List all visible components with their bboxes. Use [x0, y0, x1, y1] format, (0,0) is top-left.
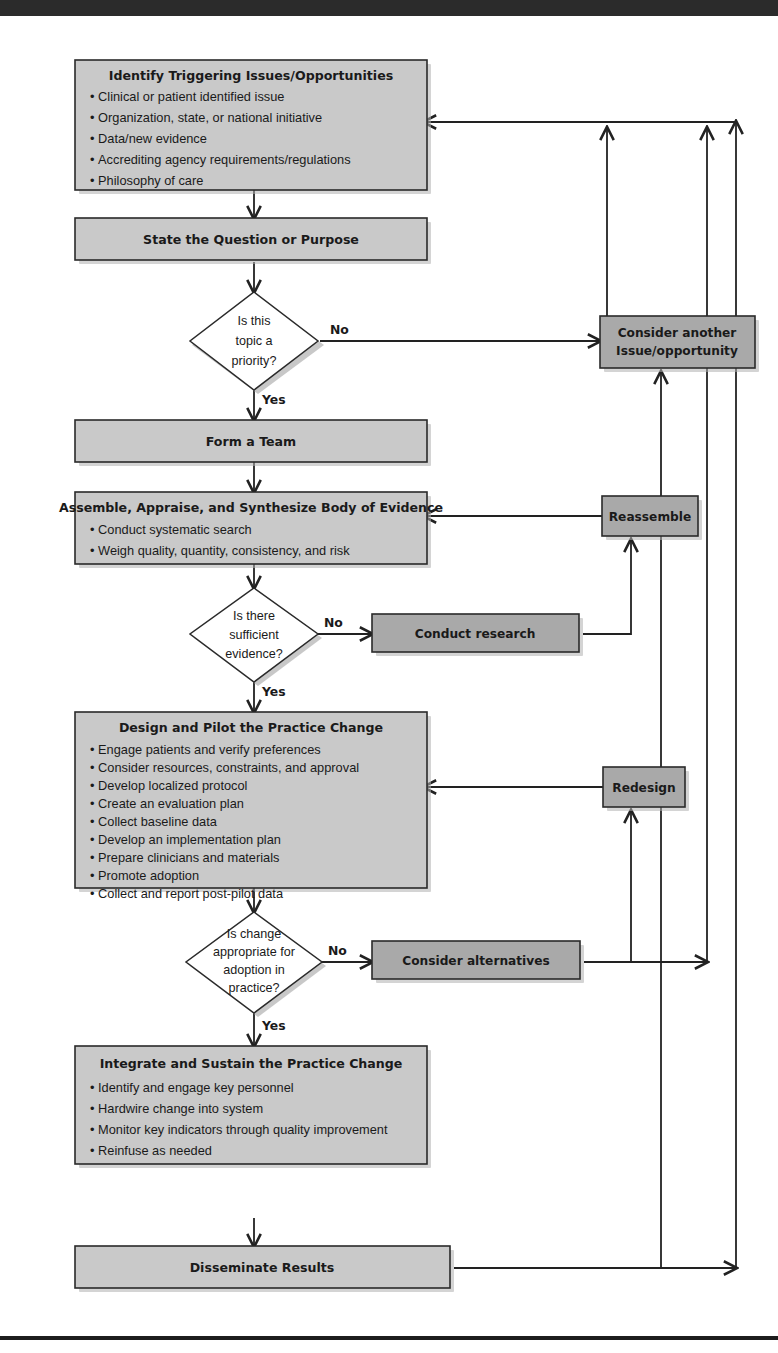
design-pilot-bullet-1: • Consider resources, constraints, and a… — [90, 760, 359, 775]
node-consider-alternatives[interactable]: Consider alternatives — [372, 941, 584, 983]
integrate-heading: Integrate and Sustain the Practice Chang… — [100, 1056, 403, 1071]
disseminate-heading: Disseminate Results — [190, 1260, 335, 1275]
assemble-bullet-1: • Weigh quality, quantity, consistency, … — [90, 543, 350, 558]
label-adoption-yes: Yes — [261, 1018, 286, 1033]
consider-another-line1: Consider another — [618, 326, 737, 340]
priority-line-2: priority? — [232, 354, 277, 368]
integrate-bullet-2: • Monitor key indicators through quality… — [90, 1122, 388, 1137]
consider-another-line2: Issue/opportunity — [616, 344, 738, 358]
identify-heading: Identify Triggering Issues/Opportunities — [109, 68, 393, 83]
integrate-bullet-0: • Identify and engage key personnel — [90, 1080, 294, 1095]
evidence-line-0: Is there — [233, 609, 275, 623]
design-pilot-bullet-7: • Promote adoption — [90, 868, 199, 883]
assemble-heading: Assemble, Appraise, and Synthesize Body … — [59, 500, 443, 515]
priority-line-1: topic a — [235, 334, 272, 348]
flowchart-page: Identify Triggering Issues/Opportunities… — [0, 0, 778, 1353]
adoption-line-3: practice? — [228, 981, 279, 995]
design-pilot-heading: Design and Pilot the Practice Change — [119, 720, 383, 735]
identify-bullet-2: • Data/new evidence — [90, 131, 207, 146]
reassemble-label: Reassemble — [609, 510, 692, 524]
node-state-question[interactable]: State the Question or Purpose — [75, 218, 431, 264]
label-evidence-no: No — [324, 615, 343, 630]
evidence-line-1: sufficient — [229, 628, 279, 642]
state-question-heading: State the Question or Purpose — [143, 232, 359, 247]
decision-is-topic-priority[interactable]: Is this topic a priority? — [190, 292, 324, 394]
node-form-a-team[interactable]: Form a Team — [75, 420, 431, 466]
integrate-bullet-1: • Hardwire change into system — [90, 1101, 263, 1116]
design-pilot-bullet-2: • Develop localized protocol — [90, 778, 247, 793]
node-reassemble[interactable]: Reassemble — [602, 496, 702, 540]
adoption-line-2: adoption in — [223, 963, 285, 977]
node-identify-triggering-issues[interactable]: Identify Triggering Issues/Opportunities… — [75, 60, 431, 194]
consider-alternatives-label: Consider alternatives — [402, 954, 550, 968]
edge-research-to-reassemble — [583, 540, 631, 634]
identify-bullet-4: • Philosophy of care — [90, 173, 203, 188]
design-pilot-bullet-0: • Engage patients and verify preferences — [90, 742, 321, 757]
node-assemble-appraise-synthesize[interactable]: Assemble, Appraise, and Synthesize Body … — [59, 492, 443, 568]
edge-alternatives-to-redesign — [584, 811, 631, 962]
node-disseminate-results[interactable]: Disseminate Results — [75, 1246, 454, 1292]
design-pilot-bullet-4: • Collect baseline data — [90, 814, 218, 829]
node-consider-another-issue[interactable]: Consider another Issue/opportunity — [600, 316, 759, 372]
decision-sufficient-evidence[interactable]: Is there sufficient evidence? — [190, 588, 322, 686]
identify-bullet-3: • Accrediting agency requirements/regula… — [90, 152, 351, 167]
node-design-pilot-practice-change[interactable]: Design and Pilot the Practice Change • E… — [75, 712, 431, 901]
priority-line-0: Is this — [238, 314, 271, 328]
integrate-bullet-3: • Reinfuse as needed — [90, 1143, 212, 1158]
decision-change-appropriate-adoption[interactable]: Is change appropriate for adoption in pr… — [186, 912, 326, 1017]
redesign-label: Redesign — [612, 781, 675, 795]
label-priority-no: No — [330, 322, 349, 337]
flowchart-canvas: Identify Triggering Issues/Opportunities… — [0, 0, 778, 1353]
design-pilot-bullet-6: • Prepare clinicians and materials — [90, 850, 279, 865]
adoption-line-0: Is change — [227, 927, 282, 941]
design-pilot-bullet-5: • Develop an implementation plan — [90, 832, 281, 847]
label-adoption-no: No — [328, 943, 347, 958]
design-pilot-bullet-8: • Collect and report post-pilot data — [90, 886, 284, 901]
assemble-bullet-0: • Conduct systematic search — [90, 522, 252, 537]
form-team-heading: Form a Team — [206, 434, 296, 449]
adoption-line-1: appropriate for — [213, 945, 295, 959]
node-conduct-research[interactable]: Conduct research — [372, 614, 583, 656]
node-redesign[interactable]: Redesign — [603, 767, 689, 811]
evidence-line-2: evidence? — [225, 647, 282, 661]
conduct-research-label: Conduct research — [415, 627, 536, 641]
label-priority-yes: Yes — [261, 392, 286, 407]
node-integrate-sustain[interactable]: Integrate and Sustain the Practice Chang… — [75, 1046, 431, 1168]
label-evidence-yes: Yes — [261, 684, 286, 699]
identify-bullet-0: • Clinical or patient identified issue — [90, 89, 284, 104]
design-pilot-bullet-3: • Create an evaluation plan — [90, 796, 244, 811]
identify-bullet-1: • Organization, state, or national initi… — [90, 110, 322, 125]
